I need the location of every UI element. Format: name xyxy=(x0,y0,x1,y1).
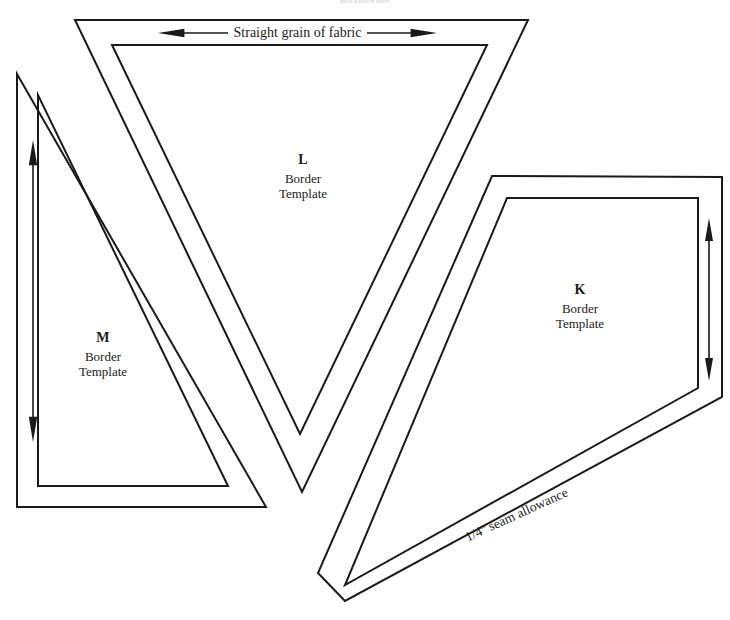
template-caption-K-line1: Border xyxy=(556,301,604,316)
template-caption-K-line2: Template xyxy=(556,316,604,331)
template-letter-L: L xyxy=(279,152,327,169)
template-caption-M-line2: Template xyxy=(79,364,127,379)
template-letter-M: M xyxy=(79,330,127,347)
template-letter-K: K xyxy=(556,282,604,299)
pattern-sheet: quilt pattern sheet Straigh xyxy=(0,0,730,620)
template-caption-L-line1: Border xyxy=(279,171,327,186)
template-label-M: M Border Template xyxy=(79,330,127,379)
template-label-L: L Border Template xyxy=(279,152,327,201)
template-caption-L-line2: Template xyxy=(279,186,327,201)
grain-direction-label: Straight grain of fabric xyxy=(228,25,368,41)
template-drawing xyxy=(0,0,730,620)
template-caption-M-line1: Border xyxy=(79,349,127,364)
template-label-K: K Border Template xyxy=(556,282,604,331)
